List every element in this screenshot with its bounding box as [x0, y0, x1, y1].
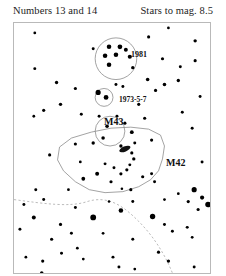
- star-field-group: [18, 27, 210, 273]
- star-marker: [187, 200, 190, 203]
- star-marker: [200, 196, 204, 200]
- star-marker: [157, 251, 160, 254]
- star-marker: [191, 236, 194, 239]
- star-marker: [95, 172, 99, 176]
- star-marker: [109, 180, 112, 183]
- star-chart-page: Numbers 13 and 14 Stars to mag. 8.5 1981…: [0, 0, 226, 276]
- star-marker: [34, 188, 37, 191]
- star-marker: [76, 247, 79, 250]
- star-marker: [18, 228, 21, 231]
- star-marker: [181, 111, 184, 114]
- star-marker: [199, 95, 202, 98]
- star-marker: [161, 57, 164, 60]
- star-marker: [90, 215, 96, 221]
- star-marker: [40, 271, 44, 273]
- star-marker: [150, 138, 153, 141]
- star-marker: [130, 130, 134, 134]
- star-marker: [123, 122, 126, 125]
- star-marker: [22, 203, 25, 206]
- star-marker: [114, 83, 117, 86]
- star-marker: [132, 157, 135, 160]
- star-marker: [130, 151, 133, 154]
- star-marker: [201, 160, 204, 163]
- star-marker: [48, 153, 51, 156]
- ecliptic-dashed-curve: [14, 200, 172, 273]
- star-marker: [133, 268, 136, 271]
- star-marker: [117, 266, 120, 269]
- star-marker: [147, 35, 150, 38]
- label-ngc-1981: 1981: [131, 51, 147, 59]
- star-marker: [82, 258, 85, 261]
- star-marker: [79, 161, 82, 164]
- star-marker: [102, 232, 105, 235]
- label-m42: M42: [166, 158, 185, 168]
- star-marker: [167, 259, 170, 262]
- star-marker: [119, 172, 122, 175]
- star-marker: [119, 144, 122, 147]
- star-marker: [194, 59, 197, 62]
- star-marker: [98, 115, 101, 118]
- star-marker: [92, 47, 95, 50]
- star-marker: [205, 202, 210, 208]
- star-marker: [150, 214, 155, 219]
- label-ngc-1973-5-7: 1973-5-7: [119, 96, 147, 104]
- star-marker: [59, 103, 62, 106]
- star-marker: [104, 162, 107, 165]
- star-marker: [177, 192, 180, 195]
- star-marker: [197, 208, 200, 211]
- star-marker: [112, 256, 115, 259]
- star-marker: [92, 141, 95, 144]
- star-marker: [154, 89, 157, 92]
- star-chart-frame: 1981 1973-5-7 M43 M42: [13, 22, 211, 274]
- star-marker: [186, 226, 189, 229]
- star-marker: [167, 27, 170, 30]
- star-marker: [114, 52, 119, 57]
- star-marker: [32, 115, 35, 118]
- page-header: Numbers 13 and 14 Stars to mag. 8.5: [0, 0, 226, 20]
- star-marker: [107, 45, 112, 50]
- star-marker: [42, 198, 45, 201]
- star-marker: [81, 177, 85, 181]
- star-marker: [193, 39, 196, 42]
- star-marker: [150, 172, 153, 175]
- star-marker: [146, 78, 150, 82]
- star-marker: [171, 230, 174, 233]
- chart-number-label: Numbers 13 and 14: [13, 5, 97, 16]
- star-marker: [179, 65, 182, 68]
- star-marker: [33, 32, 36, 35]
- star-marker: [112, 166, 115, 169]
- magnitude-limit-label: Stars to mag. 8.5: [140, 5, 213, 16]
- star-marker: [50, 238, 53, 241]
- star-marker: [80, 113, 83, 116]
- star-marker: [191, 127, 194, 130]
- star-marker: [55, 81, 58, 84]
- star-marker: [41, 260, 44, 263]
- star-marker: [96, 90, 101, 95]
- star-marker: [103, 53, 108, 58]
- star-marker: [131, 200, 134, 203]
- star-chart-canvas: [14, 23, 210, 273]
- star-marker: [121, 187, 124, 190]
- star-marker: [163, 83, 167, 87]
- star-marker: [101, 136, 105, 140]
- star-marker: [143, 117, 146, 120]
- star-marker: [121, 85, 124, 88]
- star-marker: [119, 208, 124, 213]
- star-marker: [67, 188, 70, 191]
- star-marker: [74, 206, 77, 209]
- star-marker: [42, 109, 45, 112]
- star-marker: [70, 232, 73, 235]
- star-marker: [129, 188, 132, 191]
- star-marker: [133, 142, 136, 145]
- star-marker: [163, 198, 166, 201]
- star-marker: [74, 87, 77, 90]
- star-marker: [141, 175, 144, 178]
- star-marker: [107, 62, 112, 67]
- star-marker: [128, 163, 131, 166]
- star-marker: [108, 200, 111, 203]
- star-marker: [104, 95, 109, 100]
- star-marker: [131, 238, 134, 241]
- star-marker: [131, 66, 134, 69]
- star-marker: [124, 48, 128, 52]
- star-marker: [163, 223, 166, 226]
